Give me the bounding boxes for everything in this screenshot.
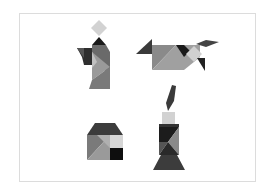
tangram-illustration (0, 0, 267, 189)
tangram-candle (153, 85, 185, 170)
tangram-dog (136, 39, 219, 71)
tangram-house (87, 123, 123, 160)
tangram-person (77, 20, 110, 89)
